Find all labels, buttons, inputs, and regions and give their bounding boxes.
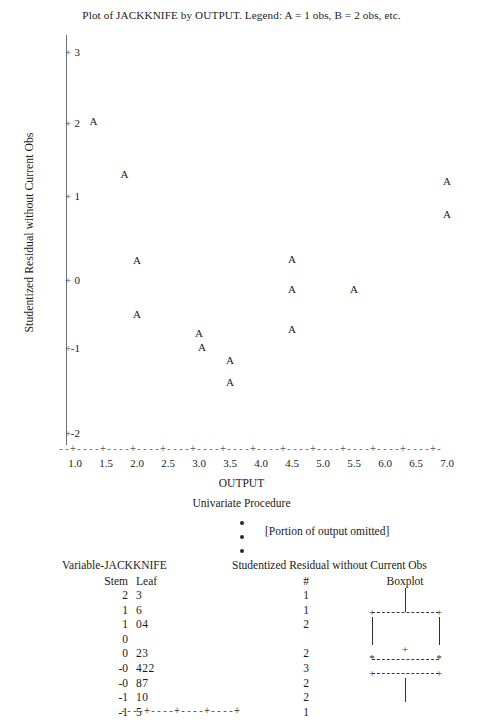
x-axis-label: OUTPUT <box>0 477 483 489</box>
x-tick-label-5.0: 5.0 <box>308 458 338 469</box>
stemleaf-baseline: ----+----+----+----+ <box>120 706 240 717</box>
boxplot-upper-fence-line <box>372 612 439 613</box>
stemleaf-leaf-value: 422 <box>136 662 155 675</box>
x-tick-label-1.5: 1.5 <box>91 458 121 469</box>
data-point: A <box>287 324 297 335</box>
y-tick-mark-3: + <box>62 47 74 58</box>
stemleaf-count-value: 3 <box>296 662 316 675</box>
x-tick-label-2.0: 2.0 <box>122 458 152 469</box>
stemleaf-leaf-value: 10 <box>136 691 149 704</box>
bullet-dot-icon <box>240 521 244 525</box>
column-header-stem: Stem <box>88 575 128 588</box>
y-tick-mark-neg2: + <box>62 428 74 439</box>
data-point: A <box>442 176 452 187</box>
stemleaf-stem-value: 0 <box>88 633 128 646</box>
y-tick-mark-0: + <box>62 275 74 286</box>
stemleaf-right-title: Studentized Residual without Current Obs <box>232 559 427 571</box>
data-point: A <box>89 116 99 127</box>
omitted-bullet-top <box>0 516 483 529</box>
y-tick-mark-2: + <box>62 118 74 129</box>
x-tick-label-1.0: 1.0 <box>60 458 90 469</box>
data-point: A <box>120 169 130 180</box>
column-header-boxplot: Boxplot <box>370 575 440 588</box>
stemleaf-count-value: 1 <box>296 604 316 617</box>
boxplot-lower-fence-line <box>372 673 439 674</box>
data-point: A <box>225 377 235 388</box>
omitted-bullet-middle: [Portion of output omitted] <box>0 530 483 543</box>
boxplot-median-right-mark: * <box>435 654 443 663</box>
data-point: A <box>442 209 452 220</box>
x-tick-label-6.0: 6.0 <box>370 458 400 469</box>
y-axis-line <box>66 35 67 445</box>
x-tick-label-6.5: 6.5 <box>401 458 431 469</box>
data-point: A <box>349 284 359 295</box>
y-tick-mark-1: + <box>62 191 74 202</box>
stemleaf-count-value: 1 <box>296 589 316 602</box>
data-point: A <box>287 284 297 295</box>
stemleaf-count-value: 2 <box>296 677 316 690</box>
stemleaf-leaf-value: 3 <box>136 589 142 602</box>
stemleaf-stem-value: 2 <box>88 589 128 602</box>
stemleaf-leaf-value: 87 <box>136 677 149 690</box>
stemleaf-stem-value: -0 <box>88 677 128 690</box>
boxplot-upper-whisker <box>405 588 406 612</box>
boxplot-box-left-side <box>372 617 373 645</box>
x-tick-label-5.5: 5.5 <box>339 458 369 469</box>
bullet-dot-icon <box>240 549 244 553</box>
stemleaf-stem-value: 0 <box>88 647 128 660</box>
stemleaf-stem-value: 1 <box>88 618 128 631</box>
data-point: A <box>132 255 142 266</box>
y-axis-label: Studentized Residual without Current Obs <box>22 98 37 368</box>
data-point: A <box>194 328 204 339</box>
y-tick-mark-neg1: + <box>62 343 74 354</box>
stemleaf-count-value: 1 <box>296 706 316 719</box>
boxplot-lower-whisker <box>405 678 406 702</box>
univariate-heading: Univariate Procedure <box>0 497 483 509</box>
page-title: Plot of JACKKNIFE by OUTPUT. Legend: A =… <box>0 9 483 21</box>
boxplot-lower-fence-right-mark: + <box>435 669 443 678</box>
boxplot-mean-mark: + <box>401 645 409 654</box>
stemleaf-count-value: 2 <box>296 647 316 660</box>
x-axis-rule: --+----+----+----+----+----+----+----+--… <box>58 444 442 455</box>
x-tick-label-4.0: 4.0 <box>246 458 276 469</box>
boxplot-lower-fence-left-mark: + <box>368 669 376 678</box>
stemleaf-leaf-value: 04 <box>136 618 149 631</box>
x-tick-label-4.5: 4.5 <box>277 458 307 469</box>
stemleaf-count-value: 2 <box>296 691 316 704</box>
scatter-plot: Studentized Residual without Current Obs… <box>0 30 483 500</box>
boxplot-median-left-mark: * <box>368 654 376 663</box>
stemleaf-stem-value: 1 <box>88 604 128 617</box>
boxplot-upper-fence-right-mark: + <box>435 608 443 617</box>
data-point: A <box>132 309 142 320</box>
stemleaf-variable-title: Variable-JACKKNIFE <box>62 559 167 571</box>
stemleaf-count-value: 2 <box>296 618 316 631</box>
column-header-leaf: Leaf <box>136 575 157 588</box>
x-tick-label-7.0: 7.0 <box>432 458 462 469</box>
data-point: A <box>225 355 235 366</box>
x-tick-label-3.5: 3.5 <box>215 458 245 469</box>
data-point: A <box>287 254 297 265</box>
stemleaf-stem-value: -1 <box>88 691 128 704</box>
omitted-bullet-bottom <box>0 544 483 557</box>
boxplot-box-right-side <box>439 617 440 645</box>
boxplot-median-line <box>372 659 439 660</box>
stemleaf-leaf-value: 6 <box>136 604 142 617</box>
stemleaf-leaf-value: 23 <box>136 647 149 660</box>
x-tick-label-3.0: 3.0 <box>184 458 214 469</box>
data-point: A <box>197 342 207 353</box>
stemleaf-stem-value: -0 <box>88 662 128 675</box>
x-tick-label-2.5: 2.5 <box>153 458 183 469</box>
boxplot-upper-fence-left-mark: + <box>368 608 376 617</box>
bullet-dot-icon <box>240 535 244 539</box>
column-header-count: # <box>296 575 316 588</box>
omitted-note: [Portion of output omitted] <box>265 525 389 538</box>
